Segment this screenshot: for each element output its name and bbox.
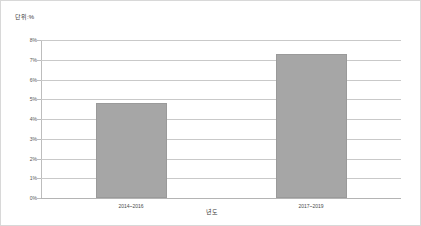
gridline: [41, 80, 401, 81]
gridline: [41, 99, 401, 100]
bar: [276, 54, 347, 198]
y-axis-tick-label: 2%: [30, 156, 37, 162]
gridline: [41, 198, 401, 199]
y-axis-tick-label: 7%: [30, 57, 37, 63]
y-axis-tick-label: 6%: [30, 77, 37, 83]
y-axis-unit-label: 단위:%: [15, 12, 34, 21]
y-axis-tick-label: 4%: [30, 116, 37, 122]
y-axis-tick-label: 3%: [30, 136, 37, 142]
gridline: [41, 60, 401, 61]
plot-area: [41, 40, 401, 198]
bar: [96, 103, 167, 198]
y-axis-tick-label: 5%: [30, 96, 37, 102]
x-axis-title: 년도: [1, 207, 421, 216]
y-axis-tick-label: 1%: [30, 175, 37, 181]
bar-chart: 단위:% 8%7%6%5%4%3%2%1%0% 2014~20162017~20…: [0, 0, 421, 226]
y-axis-tick-label: 8%: [30, 37, 37, 43]
gridline: [41, 40, 401, 41]
y-axis-tick-label: 0%: [30, 195, 37, 201]
